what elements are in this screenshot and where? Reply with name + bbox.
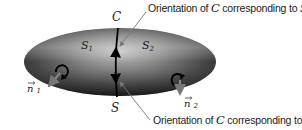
normal-n2-label: n2	[184, 98, 198, 110]
surface-s	[24, 28, 216, 96]
stokes-diagram: S1 S2 C S n1 n2 Orientation of C corresp…	[0, 0, 302, 130]
surface-s-label: S	[111, 101, 119, 115]
annotation-s2: Orientation of C corresponding to S2	[153, 113, 302, 128]
curve-c-label: C	[112, 10, 121, 24]
annotation-s1: Orientation of C corresponding to S1	[148, 1, 302, 16]
normal-n1-label: n1	[27, 83, 41, 95]
